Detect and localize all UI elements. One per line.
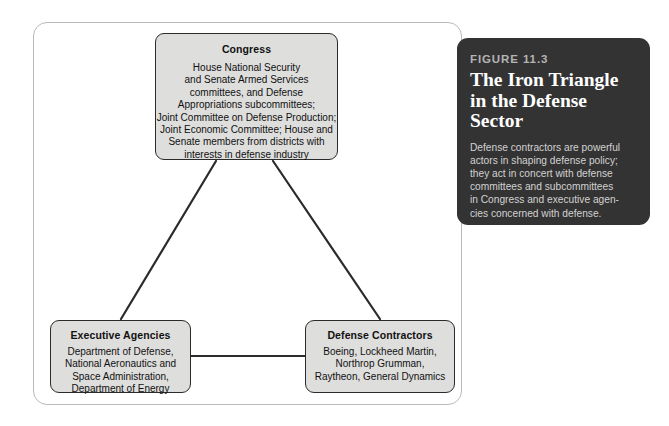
figure-title: The Iron Triangle in the Defense Sector: [470, 70, 635, 132]
node-defense-contractors: Defense Contractors Boeing, Lockheed Mar…: [305, 320, 455, 393]
node-defense-contractors-title: Defense Contractors: [306, 329, 454, 342]
figure-caption-text: Defense contractors are powerful actors …: [470, 141, 635, 220]
node-congress-body: House National Security and Senate Armed…: [156, 62, 337, 161]
node-congress: Congress House National Security and Sen…: [155, 33, 338, 160]
node-congress-title: Congress: [156, 43, 337, 56]
node-defense-contractors-body: Boeing, Lockheed Martin, Northrop Grumma…: [306, 346, 454, 383]
figure-number-label: FIGURE 11.3: [470, 52, 635, 66]
node-executive-agencies-title: Executive Agencies: [51, 329, 190, 342]
node-executive-agencies: Executive Agencies Department of Defense…: [50, 320, 191, 393]
node-executive-agencies-body: Department of Defense, National Aeronaut…: [51, 346, 190, 396]
figure-caption-panel: FIGURE 11.3 The Iron Triangle in the Def…: [457, 38, 650, 225]
